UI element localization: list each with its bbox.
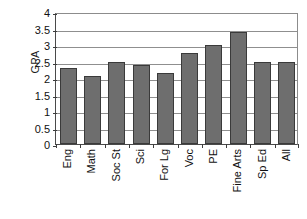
y-tick-label: 0 [44, 140, 50, 151]
x-label-slot: Sp Ed [249, 147, 273, 213]
bar [133, 65, 150, 144]
x-label-slot: PE [201, 147, 225, 213]
x-tick-label: Sci [135, 149, 146, 164]
bar-series [56, 14, 297, 144]
bar [205, 45, 222, 144]
bar [84, 76, 101, 144]
x-tick-label: Fine Arts [232, 149, 243, 192]
y-axis-tick-labels: 43.532.521.510.50 [24, 13, 50, 145]
bar [278, 62, 295, 145]
x-label-slot: For Lg [152, 147, 176, 213]
y-tick-label: 2.5 [35, 57, 50, 68]
x-label-slot: Fine Arts [225, 147, 249, 213]
bar [181, 53, 198, 144]
y-tick-label: 3.5 [35, 24, 50, 35]
y-tick-label: 4 [44, 8, 50, 19]
bar [60, 68, 77, 144]
bar [254, 62, 271, 145]
x-tick-label: Sp Ed [256, 149, 267, 179]
gpa-bar-chart: GPA 43.532.521.510.50 EngMathSoc StSciFo… [0, 0, 307, 219]
x-tick-label: Math [86, 149, 97, 173]
x-tick-label: PE [207, 149, 218, 164]
x-tick-label: Soc St [110, 149, 121, 181]
y-tick-label: 0.5 [35, 123, 50, 134]
y-tick-label: 1 [44, 107, 50, 118]
x-tick-label: All [280, 149, 291, 161]
bar [230, 32, 247, 144]
bar [157, 73, 174, 144]
y-tick-label: 1.5 [35, 90, 50, 101]
x-label-slot: All [274, 147, 298, 213]
x-label-slot: Eng [55, 147, 79, 213]
x-tick-label: For Lg [159, 149, 170, 181]
x-label-slot: Math [79, 147, 103, 213]
x-tick-label: Voc [183, 149, 194, 167]
x-label-slot: Sci [128, 147, 152, 213]
y-tick-label: 2 [44, 74, 50, 85]
bar [108, 62, 125, 144]
y-tick-label: 3 [44, 41, 50, 52]
x-tickmark [298, 144, 299, 148]
x-label-slot: Soc St [104, 147, 128, 213]
x-axis-tick-labels: EngMathSoc StSciFor LgVocPEFine ArtsSp E… [55, 147, 298, 213]
x-tick-label: Eng [62, 149, 73, 169]
x-label-slot: Voc [177, 147, 201, 213]
plot-area [55, 13, 298, 145]
